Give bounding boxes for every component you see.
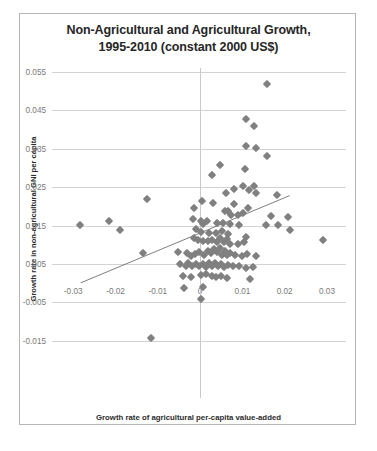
x-axis-title: Growth rate of agricultural per-capita v… <box>20 413 357 422</box>
data-point <box>139 249 147 257</box>
x-tick-label: 0.02 <box>277 287 293 296</box>
data-point <box>286 226 294 234</box>
y-tick-label: 0.005 <box>26 259 47 268</box>
chart-title: Non-Agricultural and Agricultural Growth… <box>20 22 357 56</box>
data-point <box>209 199 217 207</box>
data-point <box>241 164 249 172</box>
data-point <box>272 190 280 198</box>
gridline <box>52 341 346 342</box>
data-point <box>252 252 260 260</box>
data-point <box>267 212 275 220</box>
x-tick-label: -0.01 <box>148 287 167 296</box>
y-tick-label: -0.005 <box>23 298 46 307</box>
x-tick-label: 0.03 <box>319 287 335 296</box>
data-point <box>222 274 230 282</box>
chart-title-line-2: 1995-2010 (constant 2000 US$) <box>20 39 357 56</box>
x-tick-label: -0.03 <box>64 287 83 296</box>
data-point <box>174 248 182 256</box>
x-axis-title-text: Growth rate of agricultural per-capita v… <box>96 413 281 422</box>
y-tick-label: -0.015 <box>23 336 46 345</box>
data-point <box>241 115 249 123</box>
y-tick-label: 0.055 <box>26 68 47 77</box>
data-point <box>252 144 260 152</box>
gridline <box>52 226 346 227</box>
data-point <box>250 121 258 129</box>
gridline <box>52 302 346 303</box>
data-point <box>190 203 198 211</box>
data-point <box>261 221 269 229</box>
y-axis-title-text: Growth rate in non-agricultural GNI per … <box>29 137 38 302</box>
data-point <box>235 221 243 229</box>
data-point <box>226 220 234 228</box>
data-point <box>75 221 83 229</box>
x-tick-label: -0.02 <box>106 287 125 296</box>
data-point <box>283 213 291 221</box>
gridline <box>52 110 346 111</box>
gridline <box>52 187 346 188</box>
data-point <box>180 283 188 291</box>
data-point <box>222 188 230 196</box>
chart-title-line-1: Non-Agricultural and Agricultural Growth… <box>20 22 357 39</box>
data-point <box>189 215 197 223</box>
data-point <box>143 195 151 203</box>
y-tick-label: 0.025 <box>26 183 47 192</box>
data-point <box>216 161 224 169</box>
gridline <box>52 149 346 150</box>
data-point <box>263 80 271 88</box>
trend-line <box>52 72 346 358</box>
data-point <box>318 236 326 244</box>
data-point <box>273 221 281 229</box>
chart-container: Non-Agricultural and Agricultural Growth… <box>19 13 356 425</box>
data-point <box>262 151 270 159</box>
data-point <box>116 226 124 234</box>
data-point <box>187 273 195 281</box>
data-point <box>246 275 254 283</box>
y-tick-label: 0.045 <box>26 106 47 115</box>
gridline <box>52 72 346 73</box>
data-point <box>208 171 216 179</box>
plot-area: 0.0550.0450.0350.0250.0150.005-0.005-0.0… <box>52 72 346 358</box>
data-point <box>230 185 238 193</box>
y-tick-label: 0.035 <box>26 144 47 153</box>
data-point <box>252 189 260 197</box>
data-point <box>178 272 186 280</box>
y-tick-label: 0.015 <box>26 221 47 230</box>
data-point <box>229 199 237 207</box>
data-point <box>105 217 113 225</box>
x-tick-label: 0.01 <box>234 287 250 296</box>
